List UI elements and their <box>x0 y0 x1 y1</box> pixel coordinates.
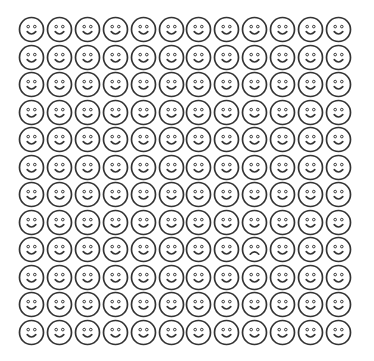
happy-face-icon <box>46 209 73 236</box>
sad-face-icon <box>241 236 268 263</box>
happy-face-icon <box>158 181 185 208</box>
happy-face-icon <box>158 154 185 181</box>
happy-face-icon <box>185 99 212 126</box>
happy-face-icon <box>297 264 324 291</box>
happy-face-icon <box>130 209 157 236</box>
happy-face-icon <box>297 154 324 181</box>
happy-face-icon <box>102 291 129 318</box>
happy-face-icon <box>297 99 324 126</box>
happy-face-icon <box>130 236 157 263</box>
happy-face-icon <box>158 236 185 263</box>
happy-face-icon <box>185 71 212 98</box>
happy-face-icon <box>130 44 157 71</box>
happy-face-icon <box>158 99 185 126</box>
happy-face-icon <box>185 264 212 291</box>
happy-face-icon <box>185 44 212 71</box>
happy-face-icon <box>325 16 352 43</box>
happy-face-icon <box>297 126 324 153</box>
happy-face-icon <box>18 99 45 126</box>
happy-face-icon <box>74 44 101 71</box>
happy-face-icon <box>325 126 352 153</box>
happy-face-icon <box>297 44 324 71</box>
happy-face-icon <box>18 209 45 236</box>
face-grid <box>18 16 354 346</box>
happy-face-icon <box>74 71 101 98</box>
happy-face-icon <box>102 319 129 346</box>
happy-face-icon <box>185 181 212 208</box>
happy-face-icon <box>102 264 129 291</box>
happy-face-icon <box>18 16 45 43</box>
happy-face-icon <box>185 319 212 346</box>
happy-face-icon <box>158 71 185 98</box>
happy-face-icon <box>130 264 157 291</box>
happy-face-icon <box>241 181 268 208</box>
happy-face-icon <box>297 319 324 346</box>
happy-face-icon <box>102 236 129 263</box>
happy-face-icon <box>185 291 212 318</box>
happy-face-icon <box>46 16 73 43</box>
happy-face-icon <box>241 71 268 98</box>
happy-face-icon <box>213 181 240 208</box>
happy-face-icon <box>213 126 240 153</box>
happy-face-icon <box>18 154 45 181</box>
happy-face-icon <box>130 181 157 208</box>
happy-face-icon <box>18 126 45 153</box>
happy-face-icon <box>158 126 185 153</box>
happy-face-icon <box>130 154 157 181</box>
happy-face-icon <box>74 154 101 181</box>
happy-face-icon <box>269 16 296 43</box>
happy-face-icon <box>74 319 101 346</box>
happy-face-icon <box>297 291 324 318</box>
happy-face-icon <box>102 181 129 208</box>
happy-face-icon <box>213 99 240 126</box>
happy-face-icon <box>241 154 268 181</box>
happy-face-icon <box>269 126 296 153</box>
happy-face-icon <box>74 126 101 153</box>
happy-face-icon <box>269 71 296 98</box>
happy-face-icon <box>213 154 240 181</box>
happy-face-icon <box>325 154 352 181</box>
happy-face-icon <box>130 99 157 126</box>
happy-face-icon <box>185 154 212 181</box>
happy-face-icon <box>213 16 240 43</box>
happy-face-icon <box>18 71 45 98</box>
happy-face-icon <box>325 71 352 98</box>
happy-face-icon <box>158 16 185 43</box>
happy-face-icon <box>241 99 268 126</box>
happy-face-icon <box>130 16 157 43</box>
happy-face-icon <box>269 209 296 236</box>
happy-face-icon <box>102 99 129 126</box>
happy-face-icon <box>46 154 73 181</box>
happy-face-icon <box>18 264 45 291</box>
happy-face-icon <box>325 319 352 346</box>
happy-face-icon <box>213 209 240 236</box>
happy-face-icon <box>297 236 324 263</box>
happy-face-icon <box>325 181 352 208</box>
happy-face-icon <box>241 44 268 71</box>
happy-face-icon <box>74 181 101 208</box>
happy-face-icon <box>130 126 157 153</box>
happy-face-icon <box>185 209 212 236</box>
happy-face-icon <box>46 181 73 208</box>
happy-face-icon <box>269 154 296 181</box>
happy-face-icon <box>74 209 101 236</box>
happy-face-icon <box>213 44 240 71</box>
happy-face-icon <box>46 319 73 346</box>
happy-face-icon <box>46 99 73 126</box>
happy-face-icon <box>241 319 268 346</box>
happy-face-icon <box>46 264 73 291</box>
happy-face-icon <box>74 264 101 291</box>
happy-face-icon <box>297 71 324 98</box>
happy-face-icon <box>325 264 352 291</box>
happy-face-icon <box>269 264 296 291</box>
happy-face-icon <box>241 264 268 291</box>
happy-face-icon <box>102 209 129 236</box>
happy-face-icon <box>213 264 240 291</box>
happy-face-icon <box>213 71 240 98</box>
happy-face-icon <box>18 44 45 71</box>
happy-face-icon <box>269 291 296 318</box>
happy-face-icon <box>46 236 73 263</box>
happy-face-icon <box>74 291 101 318</box>
happy-face-icon <box>325 44 352 71</box>
happy-face-icon <box>130 291 157 318</box>
